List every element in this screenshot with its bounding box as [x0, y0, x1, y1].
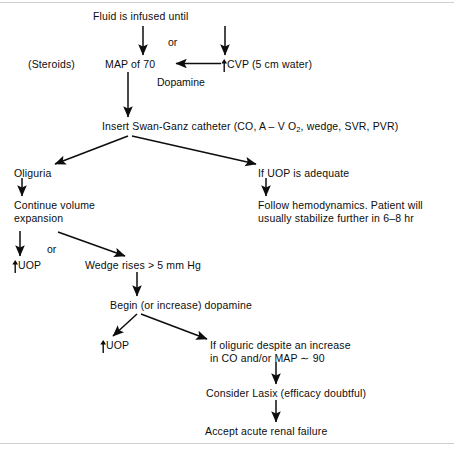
edge-swanganz-to-uop-adequate — [132, 136, 256, 164]
label-or-middle: or — [47, 243, 56, 256]
edge-swanganz-to-oliguria — [55, 136, 128, 164]
swan-ganz-text-pre: Insert Swan-Ganz catheter (CO, A – V O — [102, 120, 296, 132]
flowchart-canvas: Fluid is infused until or (Steroids) MAP… — [0, 0, 454, 455]
node-wedge-rises: Wedge rises > 5 mm Hg — [85, 259, 201, 272]
node-increased-uop-lower: UOP — [101, 339, 129, 352]
node-uop-lower-label: UOP — [106, 339, 129, 351]
edge-continue-to-wedge — [58, 232, 125, 256]
node-insert-swan-ganz-catheter: Insert Swan-Ganz catheter (CO, A – V O2,… — [102, 120, 398, 136]
node-begin-or-increase-dopamine: Begin (or increase) dopamine — [110, 299, 252, 312]
swan-ganz-text-post: , wedge, SVR, PVR) — [301, 120, 399, 132]
node-cvp: CVP (5 cm water) — [222, 58, 312, 71]
node-oliguria: Oliguria — [14, 167, 51, 180]
node-increased-uop-left: UOP — [13, 259, 41, 272]
edge-dopamine-to-uop — [113, 314, 137, 336]
label-or-top: or — [168, 36, 177, 49]
edge-dopamine-to-oliguric — [141, 314, 207, 339]
node-fluid-is-infused-until: Fluid is infused until — [93, 10, 189, 23]
node-steroids: (Steroids) — [28, 58, 75, 71]
node-map-of-70: MAP of 70 — [105, 58, 155, 71]
node-continue-volume-expansion: Continue volumeexpansion — [14, 199, 134, 225]
node-consider-lasix: Consider Lasix (efficacy doubtful) — [206, 387, 366, 400]
node-follow-hemodynamics: Follow hemodynamics. Patient willusually… — [258, 199, 448, 225]
node-cvp-label: CVP (5 cm water) — [227, 58, 312, 70]
node-accept-acute-renal-failure: Accept acute renal failure — [205, 425, 327, 438]
node-if-oliguric-despite-increase: If oliguric despite an increasein CO and… — [210, 339, 400, 365]
node-uop-left-label: UOP — [18, 259, 41, 271]
node-if-uop-is-adequate: If UOP is adequate — [258, 167, 349, 180]
label-dopamine: Dopamine — [157, 76, 205, 89]
